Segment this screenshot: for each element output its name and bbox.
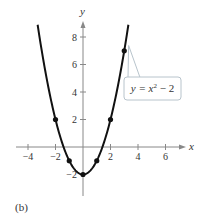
- x-tick-label: 2: [108, 151, 113, 162]
- callout-pointer: [128, 46, 140, 78]
- x-tick-label: −4: [23, 151, 34, 162]
- data-point: [80, 172, 85, 177]
- data-point: [108, 117, 113, 122]
- x-axis-label: x: [188, 140, 194, 152]
- callout-text: y = x2 − 2: [130, 82, 174, 94]
- data-point: [94, 158, 99, 163]
- data-point: [122, 48, 127, 53]
- y-tick-label: 2: [72, 114, 77, 125]
- x-tick-label: 4: [136, 151, 141, 162]
- x-tick-label: −2: [50, 151, 61, 162]
- x-tick-label: 6: [163, 151, 168, 162]
- y-axis-label: y: [79, 5, 85, 17]
- figure-caption: (b): [15, 201, 28, 213]
- data-points: [53, 48, 127, 177]
- y-tick-label: 6: [72, 59, 77, 70]
- data-point: [67, 158, 72, 163]
- y-tick-label: 4: [72, 87, 77, 98]
- parabola-chart: −4−2246−22468 y = x2 − 2 x y: [0, 0, 205, 214]
- equation-callout: y = x2 − 2: [124, 46, 181, 101]
- ticks: −4−2246−22468: [23, 32, 168, 181]
- x-axis-arrow-icon: [179, 145, 186, 150]
- y-axis-arrow-icon: [81, 21, 86, 28]
- data-point: [53, 117, 58, 122]
- y-tick-label: 8: [72, 32, 77, 43]
